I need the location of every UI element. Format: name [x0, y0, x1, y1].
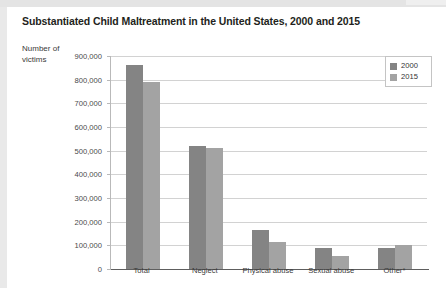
legend-item-2015[interactable]: 2015	[390, 72, 427, 82]
legend-item-2000[interactable]: 2000	[390, 61, 427, 71]
x-axis-tick-label: Physical abuse	[236, 266, 299, 275]
y-axis-tick-mark	[107, 222, 111, 223]
y-axis-tick-label: 600,000	[50, 123, 102, 132]
x-axis-tick-label: Total	[110, 266, 173, 275]
y-axis-tick-label: 900,000	[50, 52, 102, 61]
y-axis-tick-mark	[107, 56, 111, 57]
y-axis-tick-label: 300,000	[50, 194, 102, 203]
page-edge-left	[0, 7, 7, 288]
bar-physical-abuse-2015	[269, 242, 286, 269]
y-axis-tick-label: 700,000	[50, 99, 102, 108]
y-axis-tick-mark	[107, 198, 111, 199]
plot-wrapper: 900,000800,000700,000600,000500,000400,0…	[103, 49, 433, 271]
y-axis-tick-label: 100,000	[50, 241, 102, 250]
chart-figure: Substantiated Child Maltreatment in the …	[7, 7, 446, 288]
page-edge-top-right	[406, 0, 446, 5]
chart-legend: 20002015	[385, 56, 432, 87]
bar-neglect-2015	[206, 148, 223, 269]
y-axis-tick-label: 500,000	[50, 147, 102, 156]
y-axis-tick-mark	[107, 174, 111, 175]
gridline	[111, 56, 427, 57]
x-axis-tick-label: Neglect	[173, 266, 236, 275]
gridline	[111, 80, 427, 81]
bar-total-2015	[143, 82, 160, 269]
x-axis-tick-label: Other*	[363, 266, 426, 275]
y-axis-tick-mark	[107, 151, 111, 152]
y-axis-tick-label: 200,000	[50, 218, 102, 227]
bar-physical-abuse-2000	[252, 230, 269, 269]
bar-neglect-2000	[189, 146, 206, 269]
legend-label-2015: 2015	[401, 73, 418, 81]
page-canvas: Substantiated Child Maltreatment in the …	[0, 0, 446, 288]
chart-title: Substantiated Child Maltreatment in the …	[22, 15, 432, 27]
legend-swatch-2000	[390, 63, 397, 70]
y-axis-tick-label: 0	[50, 265, 102, 274]
plot-area	[110, 56, 427, 269]
legend-label-2000: 2000	[401, 62, 418, 70]
y-axis-tick-label: 400,000	[50, 170, 102, 179]
bar-total-2000	[126, 65, 143, 269]
y-axis-tick-mark	[107, 245, 111, 246]
y-axis-tick-mark	[107, 80, 111, 81]
y-axis-tick-mark	[107, 103, 111, 104]
x-axis-tick-label: Sexual abuse	[300, 266, 363, 275]
y-axis-tick-label: 800,000	[50, 76, 102, 85]
page-edge-top	[0, 0, 446, 7]
legend-swatch-2015	[390, 74, 397, 81]
y-axis-tick-mark	[107, 127, 111, 128]
